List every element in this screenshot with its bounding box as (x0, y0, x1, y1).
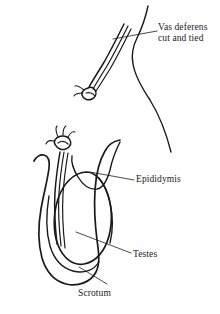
vas-deferens-tie-thread-5 (68, 132, 75, 137)
vas-deferens-lower-lumen (63, 153, 68, 248)
vasectomy-diagram: Vas deferens cut and tied Epididymis Tes… (0, 0, 220, 314)
vas-deferens-cut-lumen (96, 29, 131, 91)
vas-deferens-cut-wall-left (89, 24, 124, 87)
vas-deferens-cut-wall-right (93, 26, 128, 89)
vas-deferens-tie-thread-6 (46, 141, 54, 144)
label-scrotum: Scrotum (78, 288, 111, 299)
vas-deferens-knot-upper-inner (86, 93, 95, 96)
diagram-artwork (0, 0, 220, 314)
label-testes: Testes (133, 249, 157, 260)
vas-deferens-knot-lower-inner (58, 142, 68, 144)
vas-deferens-tie-thread-1 (75, 86, 84, 90)
label-vas-deferens-line2: cut and tied (158, 33, 207, 44)
label-vas-deferens: Vas deferens cut and tied (158, 22, 207, 43)
label-vas-deferens-line1: Vas deferens (158, 22, 207, 33)
vas-deferens-tie-thread-4 (63, 126, 66, 135)
vas-deferens-cut-end-group (74, 24, 131, 100)
label-epididymis: Epididymis (136, 174, 181, 185)
vas-deferens-knot-upper (82, 87, 96, 99)
vas-deferens-tie-thread-3 (56, 126, 58, 137)
vas-deferens-knot-lower (54, 136, 70, 150)
leader-scrotum (79, 267, 107, 284)
